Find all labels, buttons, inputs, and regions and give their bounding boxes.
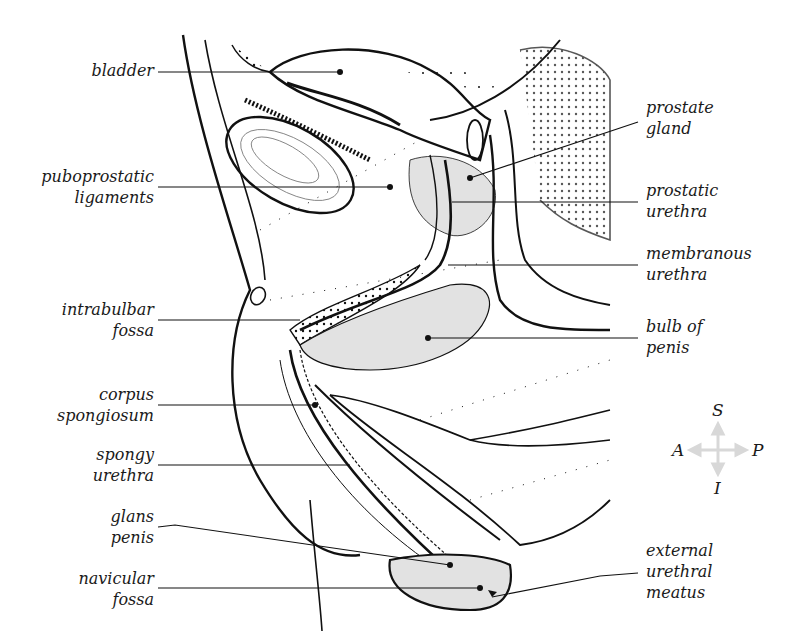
label-spongy-urethra: spongy urethra (4, 444, 154, 486)
compass-superior: S (712, 400, 724, 420)
label-prostatic-urethra: prostatic urethra (646, 180, 786, 222)
compass-arrows (690, 424, 746, 474)
label-external-urethral-meatus: external urethral meatus (646, 540, 786, 603)
compass-posterior: P (752, 440, 763, 460)
label-glans-penis: glans penis (4, 506, 154, 548)
compass-anterior: A (672, 440, 684, 460)
label-prostate-gland: prostate gland (646, 97, 786, 139)
compass-inferior: I (714, 478, 721, 498)
label-navicular-fossa: navicular fossa (4, 568, 154, 610)
label-membranous-urethra: membranous urethra (646, 243, 786, 285)
label-puboprostatic-ligaments: puboprostatic ligaments (4, 166, 154, 208)
label-bladder: bladder (4, 60, 154, 81)
label-corpus-spongiosum: corpus spongiosum (4, 384, 154, 426)
anatomy-figure: bladder puboprostatic ligaments intrabul… (0, 0, 786, 631)
label-intrabulbar-fossa: intrabulbar fossa (4, 299, 154, 341)
label-bulb-of-penis: bulb of penis (646, 316, 786, 358)
